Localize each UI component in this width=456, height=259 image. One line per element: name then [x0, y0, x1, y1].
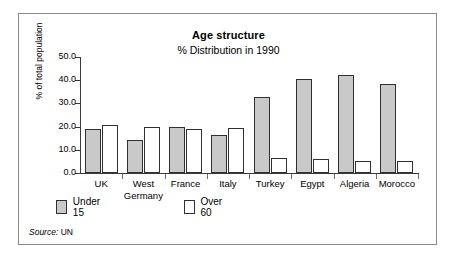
x-axis-category-label: Algeria — [334, 178, 376, 190]
chart-subtitle: % Distribution in 1990 — [19, 44, 438, 56]
bar-under15 — [296, 79, 312, 173]
source-value: UN — [61, 227, 73, 237]
bar-under15 — [127, 140, 143, 173]
x-axis-category-line: Morocco — [379, 178, 415, 189]
y-axis-tick-label: 40.0 — [42, 74, 76, 84]
x-axis-category-label: UK — [80, 178, 122, 190]
x-axis-separator-tick — [418, 174, 419, 179]
legend-swatch-over60 — [184, 200, 195, 214]
y-axis-tick-label: 20.0 — [42, 121, 76, 131]
chart-frame: Age structure % Distribution in 1990 % o… — [18, 13, 437, 245]
x-axis-category-label: Morocco — [376, 178, 418, 190]
bar-over60 — [186, 129, 202, 173]
bar-under15 — [85, 129, 101, 173]
bar-under15 — [338, 75, 354, 173]
bar-under15 — [254, 97, 270, 173]
bar-group — [291, 57, 333, 173]
x-axis-category-label: Italy — [207, 178, 249, 190]
x-axis-category-label: France — [165, 178, 207, 190]
plot-area: 0.010.020.030.040.050.0 UKWestGermanyFra… — [80, 57, 418, 173]
bar-over60 — [271, 158, 287, 173]
x-axis-category-label: WestGermany — [122, 178, 164, 202]
bar-over60 — [355, 161, 371, 173]
chart-figure: Age structure % Distribution in 1990 % o… — [0, 0, 456, 259]
y-axis-tick-label: 10.0 — [42, 144, 76, 154]
x-axis-category-label: Turkey — [249, 178, 291, 190]
bar-under15 — [169, 127, 185, 173]
bar-group — [122, 57, 164, 173]
x-axis-category-line: France — [171, 178, 201, 189]
source-label: Source: — [29, 227, 58, 237]
x-axis-category-label: Egypt — [291, 178, 333, 190]
x-axis-category-line: West — [133, 178, 154, 189]
x-axis-category-line: UK — [95, 178, 108, 189]
bar-group — [80, 57, 122, 173]
legend-label: Under 15 — [73, 196, 103, 218]
bar-over60 — [397, 161, 413, 173]
bar-group — [249, 57, 291, 173]
bar-over60 — [228, 128, 244, 173]
bar-over60 — [144, 127, 160, 173]
y-axis-tick-label: 0.0 — [42, 167, 76, 177]
y-axis-tick-label: 50.0 — [42, 51, 76, 61]
bar-group — [207, 57, 249, 173]
bar-over60 — [102, 125, 118, 173]
bar-group — [165, 57, 207, 173]
x-axis-category-line: Egypt — [300, 178, 324, 189]
chart-title: Age structure — [19, 29, 438, 41]
legend-item-under15: Under 15 — [56, 196, 103, 218]
legend-item-over60: Over 60 — [184, 196, 226, 218]
legend-swatch-under15 — [56, 200, 67, 214]
x-axis-category-line: Turkey — [256, 178, 285, 189]
bar-group — [334, 57, 376, 173]
y-axis-tick-label: 30.0 — [42, 97, 76, 107]
x-axis-category-line: Algeria — [340, 178, 370, 189]
bar-over60 — [313, 159, 329, 173]
source-note: Source: UN — [29, 227, 73, 237]
bar-under15 — [211, 135, 227, 173]
x-axis-category-line: Italy — [219, 178, 236, 189]
bar-under15 — [380, 84, 396, 173]
x-axis-category-line: Germany — [122, 190, 164, 202]
legend-label: Over 60 — [201, 196, 226, 218]
bar-group — [376, 57, 418, 173]
